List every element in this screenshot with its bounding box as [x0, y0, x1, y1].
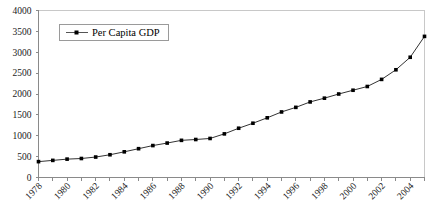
x-axis-tick-label: 1988 [166, 181, 187, 202]
data-point-marker [294, 106, 298, 110]
data-point-marker [251, 121, 255, 125]
x-axis-tick-label: 1984 [109, 181, 130, 202]
y-axis-tick-label: 3000 [13, 48, 32, 58]
x-axis-tick-label: 1980 [52, 181, 73, 202]
data-point-marker [423, 35, 427, 39]
data-point-marker [237, 126, 241, 130]
legend-sample-marker [75, 31, 79, 35]
x-axis-label-group: 1978198019821984198619881990199219941996… [23, 181, 415, 202]
data-point-marker [337, 92, 341, 96]
per-capita-gdp-line-chart: 05001000150020002500300035004000 1978198… [0, 0, 432, 219]
y-axis-tick-label: 1000 [13, 131, 32, 141]
data-point-marker [265, 116, 269, 120]
data-point-marker [180, 139, 184, 143]
data-point-marker [194, 138, 198, 142]
data-point-marker [151, 144, 155, 148]
x-axis-tick-label: 2000 [338, 181, 359, 202]
series-line-per-capita-gdp [39, 36, 425, 161]
data-point-marker [37, 160, 41, 164]
y-axis-label-group: 05001000150020002500300035004000 [13, 6, 32, 183]
data-point-marker [280, 110, 284, 114]
y-axis-tick-label: 3500 [13, 27, 32, 37]
x-axis-tick-label: 2004 [395, 181, 416, 202]
data-point-marker [323, 96, 327, 100]
y-axis-tick-label: 2500 [13, 68, 32, 78]
data-point-marker [108, 153, 112, 157]
y-axis-tick-label: 500 [17, 152, 32, 162]
data-point-marker [223, 132, 227, 136]
x-axis-tick-label: 1990 [195, 181, 216, 202]
y-axis-tick-label: 4000 [13, 6, 32, 16]
chart-container: 05001000150020002500300035004000 1978198… [0, 0, 432, 219]
y-axis-tick-label: 1500 [13, 110, 32, 120]
x-axis-tick-label: 1992 [224, 181, 245, 202]
data-point-marker [308, 100, 312, 104]
data-point-marker [351, 88, 355, 92]
legend: Per Capita GDP [60, 25, 169, 41]
y-axis-tick-label: 0 [27, 173, 32, 183]
legend-label-per-capita-gdp: Per Capita GDP [92, 27, 160, 38]
x-axis-tick-label: 1986 [138, 181, 159, 202]
data-point-marker [366, 85, 370, 89]
data-point-marker [80, 157, 84, 161]
data-point-marker [122, 150, 126, 154]
x-axis-tick-label: 1982 [81, 181, 102, 202]
data-point-marker [208, 137, 212, 141]
data-point-marker [65, 157, 69, 161]
data-series-group [37, 35, 427, 164]
data-point-marker [51, 159, 55, 163]
data-point-marker [137, 147, 141, 151]
data-point-marker [394, 68, 398, 72]
data-point-marker [408, 55, 412, 59]
x-axis-tick-label: 1978 [23, 181, 44, 202]
x-axis-tick-label: 2002 [367, 181, 388, 202]
y-axis-tick-label: 2000 [13, 89, 32, 99]
data-point-marker [165, 141, 169, 145]
x-axis-tick-label: 1998 [309, 181, 330, 202]
x-axis-tick-label: 1994 [252, 181, 273, 202]
data-point-marker [94, 155, 98, 159]
x-axis-tick-label: 1996 [281, 181, 302, 202]
data-point-marker [380, 78, 384, 82]
series-marker-group [37, 35, 427, 164]
